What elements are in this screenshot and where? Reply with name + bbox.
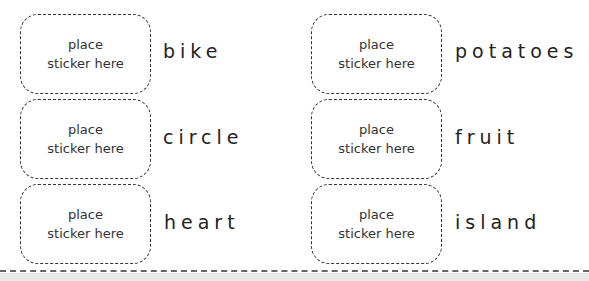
sticker-label-line1: place	[359, 205, 394, 224]
sticker-label-line1: place	[68, 35, 103, 54]
sticker-label-line2: sticker here	[47, 139, 123, 158]
sticker-label-line1: place	[68, 205, 103, 224]
cut-line	[0, 270, 589, 272]
word-heart: heart	[164, 211, 240, 233]
word-island: island	[455, 211, 541, 233]
sticker-box-circle[interactable]: place sticker here	[20, 99, 151, 179]
sticker-label-line1: place	[359, 120, 394, 139]
sticker-box-potatoes[interactable]: place sticker here	[311, 14, 442, 94]
sticker-box-fruit[interactable]: place sticker here	[311, 99, 442, 179]
sticker-box-island[interactable]: place sticker here	[311, 184, 442, 264]
sticker-label-line2: sticker here	[338, 139, 414, 158]
sticker-box-heart[interactable]: place sticker here	[20, 184, 151, 264]
sticker-label-line2: sticker here	[47, 224, 123, 243]
sticker-box-bike[interactable]: place sticker here	[20, 14, 151, 94]
word-potatoes: potatoes	[455, 40, 578, 62]
word-fruit: fruit	[455, 126, 519, 148]
sticker-label-line1: place	[359, 35, 394, 54]
sticker-label-line2: sticker here	[47, 54, 123, 73]
sticker-label-line1: place	[68, 120, 103, 139]
word-circle: circle	[163, 126, 244, 148]
sticker-label-line2: sticker here	[338, 54, 414, 73]
footer-bar	[0, 273, 589, 281]
word-bike: bike	[163, 40, 222, 62]
sticker-label-line2: sticker here	[338, 224, 414, 243]
